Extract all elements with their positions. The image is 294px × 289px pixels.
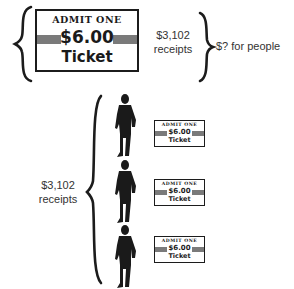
- small-ticket: ADMIT ONE $6.00 Ticket: [154, 120, 205, 147]
- ticket-word: Ticket: [155, 136, 204, 144]
- top-receipts-label: $3,102 receipts: [150, 28, 196, 56]
- small-ticket: ADMIT ONE $6.00 Ticket: [154, 179, 205, 206]
- ticket-price: $6.00: [155, 187, 204, 195]
- bottom-receipts-amount: $3,102: [33, 178, 83, 192]
- right-brace-icon: [198, 12, 214, 82]
- small-ticket: ADMIT ONE $6.00 Ticket: [154, 236, 205, 263]
- big-ticket: ADMIT ONE $6.00 Ticket: [35, 9, 139, 72]
- ticket-header: ADMIT ONE: [155, 181, 204, 186]
- ticket-price: $6.00: [155, 128, 204, 136]
- tall-left-brace-icon: [86, 95, 104, 283]
- ticket-price: $6.00: [37, 27, 137, 47]
- ticket-word: Ticket: [155, 195, 204, 203]
- bottom-receipts-label: $3,102 receipts: [33, 178, 83, 206]
- ticket-header: ADMIT ONE: [155, 238, 204, 243]
- bottom-receipts-text: receipts: [33, 192, 83, 206]
- left-brace-icon: [14, 6, 34, 82]
- ticket-price: $6.00: [155, 244, 204, 252]
- result-label: $? for people: [216, 39, 280, 53]
- ticket-header: ADMIT ONE: [155, 122, 204, 127]
- ticket-header: ADMIT ONE: [37, 14, 137, 25]
- top-receipts-text: receipts: [150, 42, 196, 56]
- ticket-word: Ticket: [155, 252, 204, 260]
- person-silhouette-icon: [114, 160, 140, 224]
- person-silhouette-icon: [114, 225, 140, 289]
- person-silhouette-icon: [114, 94, 140, 158]
- ticket-word: Ticket: [37, 48, 137, 66]
- top-receipts-amount: $3,102: [150, 28, 196, 42]
